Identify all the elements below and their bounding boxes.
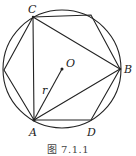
triangle-abc — [33, 17, 120, 120]
point-a-dot — [32, 118, 35, 121]
label-c: C — [28, 3, 37, 16]
point-b-dot — [119, 68, 121, 70]
figure-caption: 图 7.1.1 — [0, 141, 136, 156]
radius-oa — [34, 69, 62, 120]
label-b: B — [123, 63, 132, 76]
center-point-o — [61, 68, 64, 71]
geometry-figure: C O B r A D — [0, 0, 136, 140]
label-a: A — [28, 126, 37, 139]
label-d: D — [86, 126, 96, 139]
point-c-dot — [32, 16, 34, 18]
label-r: r — [42, 84, 48, 97]
label-o: O — [66, 57, 75, 70]
